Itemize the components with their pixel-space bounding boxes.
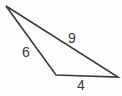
side-label-base: 4 [73, 78, 89, 92]
triangle-figure: 6 9 4 [0, 0, 122, 96]
side-label-left: 6 [18, 45, 34, 59]
side-label-hypotenuse: 9 [64, 31, 80, 45]
triangle-outline [6, 6, 118, 77]
